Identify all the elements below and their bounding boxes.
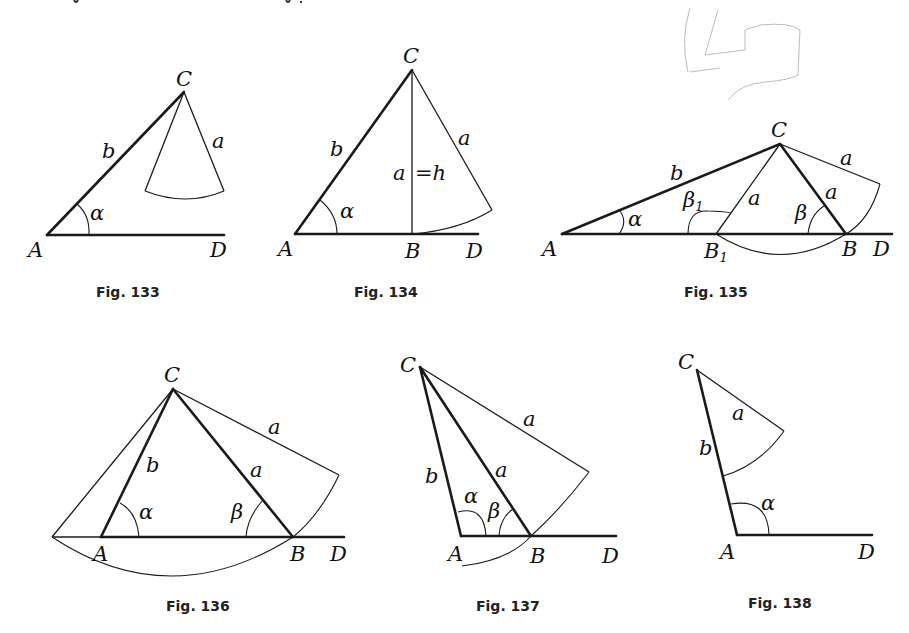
- figure-133: C b a α A D Fig. 133: [26, 67, 227, 300]
- label-B: B: [289, 542, 305, 566]
- figure-135: C b a a a α β1 β A B1 B D Fig. 135: [540, 118, 892, 300]
- angle-alpha-arc: [320, 200, 337, 234]
- label-beta: β: [794, 201, 807, 225]
- pencil-sketch: [684, 8, 800, 100]
- label-A: A: [718, 540, 735, 564]
- label-equals-h: =h: [415, 161, 446, 185]
- label-alpha: α: [628, 207, 642, 231]
- label-A: A: [446, 542, 463, 566]
- caption-fig-136: Fig. 136: [166, 598, 230, 614]
- label-C: C: [403, 44, 419, 68]
- label-A: A: [276, 237, 293, 261]
- side-a-radius: [412, 70, 492, 210]
- figure-134: C b a a =h α A B D Fig. 134: [276, 44, 492, 300]
- caption-fig-138: Fig. 138: [748, 595, 812, 611]
- label-A: A: [91, 542, 108, 566]
- label-b: b: [102, 139, 115, 163]
- label-B1: B1: [703, 239, 728, 265]
- label-a-top: a: [268, 415, 281, 439]
- arc-upper: [293, 475, 339, 537]
- label-a-vertical: a: [393, 161, 406, 185]
- label-b: b: [670, 161, 683, 185]
- label-beta: β: [230, 500, 243, 524]
- caption-fig-133: Fig. 133: [96, 284, 160, 300]
- arc-lower: [52, 537, 293, 576]
- label-B: B: [529, 544, 545, 568]
- arc-a: [723, 431, 784, 476]
- label-alpha: α: [139, 500, 153, 524]
- label-D: D: [601, 544, 619, 568]
- label-a-top: a: [523, 407, 536, 431]
- label-alpha: α: [464, 484, 478, 508]
- label-C: C: [164, 363, 180, 387]
- label-a-CB: a: [495, 458, 508, 482]
- angle-beta-arc: [808, 206, 824, 234]
- label-alpha: α: [761, 491, 775, 515]
- label-b: b: [330, 137, 343, 161]
- label-D: D: [857, 540, 875, 564]
- label-beta: β: [487, 499, 500, 523]
- angle-alpha-arc: [77, 204, 89, 235]
- arc-a: [412, 210, 492, 234]
- arc-upper: [846, 184, 880, 234]
- label-C: C: [771, 118, 787, 142]
- radius-left: [145, 92, 184, 191]
- caption-fig-134: Fig. 134: [354, 284, 418, 300]
- label-a-CB: a: [825, 180, 838, 204]
- top-text-fragment: [74, 0, 302, 2]
- angle-alpha-arc: [120, 503, 139, 537]
- label-a: a: [732, 401, 745, 425]
- angle-alpha-arc: [458, 511, 486, 536]
- side-b: [420, 367, 461, 536]
- label-C: C: [176, 67, 192, 91]
- label-alpha: α: [90, 201, 104, 225]
- label-a: a: [458, 126, 471, 150]
- label-A: A: [540, 237, 557, 261]
- label-C: C: [400, 353, 416, 377]
- label-beta1: β1: [682, 188, 703, 214]
- label-D: D: [465, 239, 483, 263]
- figure-137: C b a a α β A B D Fig. 137: [400, 353, 619, 614]
- caption-fig-137: Fig. 137: [476, 598, 540, 614]
- label-D: D: [872, 237, 890, 261]
- label-b: b: [425, 464, 438, 488]
- arc-upper: [531, 472, 589, 536]
- label-B: B: [841, 237, 857, 261]
- angle-beta-arc: [246, 500, 263, 537]
- label-a-CB: a: [250, 458, 263, 482]
- figure-136: C b a a α β A B D Fig. 136: [52, 363, 347, 614]
- arc-a: [145, 191, 224, 199]
- label-b: b: [699, 436, 712, 460]
- arc-lower: [716, 234, 846, 255]
- label-C: C: [678, 350, 694, 374]
- label-D: D: [209, 238, 227, 262]
- label-A: A: [26, 238, 43, 262]
- side-b: [47, 92, 184, 235]
- label-b: b: [146, 453, 159, 477]
- figure-sheet: C b a α A D Fig. 133 C b a a =h α A B D …: [0, 0, 909, 633]
- label-B: B: [404, 239, 420, 263]
- label-a: a: [212, 129, 225, 153]
- radius-a: [420, 367, 589, 472]
- figure-138: C b a α A D Fig. 138: [678, 350, 875, 611]
- angle-alpha-arc: [619, 211, 624, 234]
- side-a-CB: [420, 367, 531, 536]
- caption-fig-135: Fig. 135: [684, 284, 748, 300]
- label-alpha: α: [340, 199, 354, 223]
- label-a-top: a: [840, 146, 853, 170]
- arc-lower: [462, 536, 531, 566]
- label-a-CB1: a: [748, 186, 761, 210]
- angle-beta-arc: [499, 509, 513, 536]
- label-D: D: [329, 542, 347, 566]
